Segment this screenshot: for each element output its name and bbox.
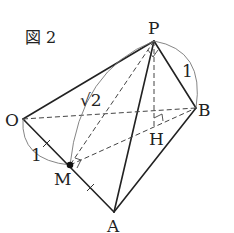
point-M-dot (67, 162, 74, 169)
right-angle-P (148, 50, 158, 57)
measure-PB: 1 (182, 61, 193, 81)
figure-title: 図 2 (25, 28, 56, 47)
measure-PM: √2 (80, 90, 102, 110)
geometry-figure: 図 2 P O B M A H 1 1 √2 (0, 0, 234, 233)
label-H: H (149, 129, 164, 149)
label-M: M (54, 169, 71, 189)
label-A: A (106, 216, 120, 233)
label-B: B (198, 100, 211, 120)
right-angle-H (154, 114, 163, 121)
label-O: O (5, 110, 19, 130)
solid-edges (23, 41, 196, 212)
edge-OB (23, 108, 196, 119)
measure-OM: 1 (31, 145, 42, 165)
right-angle-M (75, 158, 81, 168)
label-P: P (148, 18, 159, 38)
